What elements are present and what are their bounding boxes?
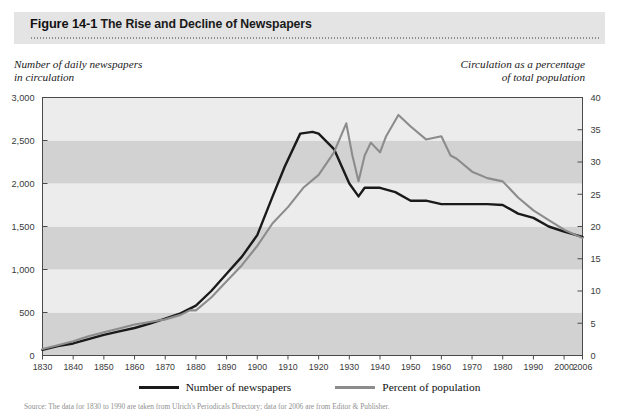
svg-text:1920: 1920 [309,362,329,372]
left-axis-tick-labels: 05001,0001,5002,0002,5003,000 [12,93,35,361]
legend-label-newspapers: Number of newspapers [186,381,292,393]
legend-item-newspapers: Number of newspapers [139,381,292,393]
chart-legend: Number of newspapers Percent of populati… [0,381,619,393]
svg-text:25: 25 [591,190,601,200]
svg-text:500: 500 [19,308,34,318]
source-note: Source: The data for 1830 to 1990 are ta… [24,402,390,411]
svg-text:1940: 1940 [370,362,390,372]
svg-text:20: 20 [591,222,601,232]
line-chart: 05001,0001,5002,0002,5003,000 0510152025… [0,0,619,411]
chart-background-bands [43,98,583,356]
svg-text:1900: 1900 [247,362,267,372]
right-axis-tick-labels: 0510152025303540 [591,93,601,361]
svg-text:1970: 1970 [462,362,482,372]
svg-text:35: 35 [591,125,601,135]
svg-text:2000: 2000 [554,362,574,372]
svg-text:1840: 1840 [63,362,83,372]
svg-text:1850: 1850 [94,362,114,372]
svg-text:1860: 1860 [125,362,145,372]
svg-text:1910: 1910 [278,362,298,372]
svg-text:1930: 1930 [340,362,360,372]
svg-text:1830: 1830 [33,362,53,372]
svg-text:10: 10 [591,286,601,296]
svg-text:5: 5 [591,319,596,329]
svg-text:1880: 1880 [186,362,206,372]
legend-swatch-population [335,386,375,389]
svg-text:1990: 1990 [524,362,544,372]
legend-swatch-newspapers [139,386,179,389]
svg-text:30: 30 [591,157,601,167]
x-axis-tick-labels: 1830184018501860187018801890190019101920… [33,362,593,372]
svg-text:0: 0 [591,351,596,361]
legend-item-population: Percent of population [335,381,480,393]
svg-text:1870: 1870 [155,362,175,372]
svg-text:1960: 1960 [432,362,452,372]
svg-text:15: 15 [591,254,601,264]
svg-text:1,000: 1,000 [12,265,35,275]
svg-text:2,000: 2,000 [12,179,35,189]
svg-text:40: 40 [591,93,601,103]
svg-text:1980: 1980 [493,362,513,372]
svg-text:1950: 1950 [401,362,421,372]
chart-container: 05001,0001,5002,0002,5003,000 0510152025… [0,0,619,411]
svg-text:0: 0 [29,351,34,361]
legend-label-population: Percent of population [382,381,480,393]
svg-text:3,000: 3,000 [12,93,35,103]
svg-text:2006: 2006 [573,362,593,372]
svg-text:1890: 1890 [217,362,237,372]
svg-text:2,500: 2,500 [12,136,35,146]
svg-text:1,500: 1,500 [12,222,35,232]
